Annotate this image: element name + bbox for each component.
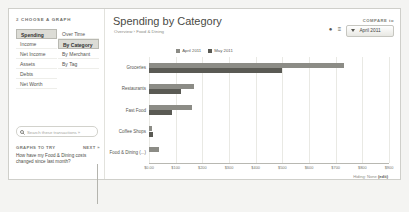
sidebar-item-label: Net Worth: [20, 81, 42, 87]
graph-type-list: Spending Income Net Income Assets Debts …: [16, 29, 57, 89]
legend-swatch: [176, 49, 180, 53]
value-axis: $0.00$100$200$300$400$500$600$700$800$90…: [149, 165, 389, 174]
sidebar-item-net-worth[interactable]: Net Worth: [16, 79, 57, 89]
axis-tick-label: $300: [225, 165, 234, 170]
table-row[interactable]: [149, 89, 181, 94]
sidebar-item-spending[interactable]: Spending: [16, 29, 57, 39]
tip-question[interactable]: How have my Food & Dining costs changed …: [16, 153, 100, 165]
gridline: [389, 57, 390, 163]
category-label[interactable]: Restaurants: [122, 86, 146, 91]
compare-to-label: COMPARE to: [346, 18, 394, 23]
axis-tick-label: $100: [171, 165, 180, 170]
sidebar-item-label: Assets: [20, 61, 35, 67]
legend-swatch: [208, 49, 212, 53]
hiding-label: Hiding: None: [353, 174, 377, 179]
table-row[interactable]: [149, 132, 153, 137]
legend-label: April 2011: [182, 48, 201, 53]
left-panel: 2 CHOOSE A GRAPH Spending Income Net Inc…: [9, 9, 105, 179]
axis-tick-label: $900: [385, 165, 394, 170]
graphs-app-window: 2 CHOOSE A GRAPH Spending Income Net Inc…: [8, 8, 401, 180]
table-row[interactable]: [149, 68, 282, 73]
category-label[interactable]: Coffee Shops: [119, 129, 146, 134]
sidebar-item-label: Spending: [21, 32, 44, 38]
breadcrumb[interactable]: Overview › Food & Dining: [114, 29, 164, 34]
axis-tick-label: $600: [305, 165, 314, 170]
category-label[interactable]: Food & Dining (...): [109, 150, 146, 155]
tip-pointer-line: [97, 164, 98, 204]
legend-item-may[interactable]: May 2011: [208, 48, 233, 53]
legend-item-april[interactable]: April 2011: [176, 48, 201, 53]
sidebar-item-debts[interactable]: Debts: [16, 69, 57, 79]
graphs-to-try-panel: NEXT » GRAPHS TO TRY How have my Food & …: [16, 145, 100, 165]
table-row[interactable]: [149, 147, 159, 152]
table-row[interactable]: [149, 126, 152, 131]
category-label[interactable]: Groceries: [126, 65, 146, 70]
search-transactions-box[interactable]: Search these transactions »: [16, 126, 98, 137]
print-icon[interactable]: ●: [327, 26, 334, 33]
chart-legend: April 2011 May 2011: [9, 46, 400, 55]
page-title: Spending by Category: [113, 15, 222, 27]
plot-area: [149, 57, 389, 164]
legend-label: May 2011: [214, 48, 233, 53]
axis-tick-label: $700: [331, 165, 340, 170]
table-row[interactable]: [149, 105, 192, 110]
choose-a-graph-heading: 2 CHOOSE A GRAPH: [16, 17, 71, 22]
table-row[interactable]: [149, 84, 194, 89]
table-row[interactable]: [149, 110, 172, 115]
table-row[interactable]: [149, 63, 344, 68]
axis-tick-label: $500: [278, 165, 287, 170]
sidebar-item-label: Debts: [20, 71, 33, 77]
export-icon[interactable]: ≡: [336, 26, 343, 33]
axis-tick-label: $200: [198, 165, 207, 170]
sidebar-item-assets[interactable]: Assets: [16, 59, 57, 69]
search-icon: [20, 130, 25, 135]
sidebar-item-over-time[interactable]: Over Time: [58, 29, 99, 39]
category-axis: GroceriesRestaurantsFast FoodCoffee Shop…: [113, 57, 149, 163]
step-number: 2: [16, 17, 19, 22]
spending-bar-chart: GroceriesRestaurantsFast FoodCoffee Shop…: [113, 57, 395, 179]
sidebar-item-label: Over Time: [62, 31, 85, 37]
bar-series: [149, 57, 389, 163]
category-label[interactable]: Fast Food: [126, 108, 146, 113]
hiding-status: Hiding: None (edit): [353, 174, 388, 179]
compare-period-dropdown[interactable]: April 2011: [346, 25, 394, 37]
axis-tick-label: $400: [251, 165, 260, 170]
graphs-to-try-header: NEXT » GRAPHS TO TRY: [16, 145, 100, 150]
compare-period-value: April 2011: [359, 28, 380, 33]
graphs-to-try-label: GRAPHS TO TRY: [16, 145, 55, 150]
choose-a-graph-label: CHOOSE A GRAPH: [21, 17, 71, 22]
sidebar-item-label: By Tag: [62, 61, 77, 67]
axis-tick-label: $0.00: [144, 165, 154, 170]
hiding-edit-link[interactable]: (edit): [378, 174, 388, 179]
header-tool-icons: ● ≡: [327, 26, 343, 33]
axis-tick-label: $800: [358, 165, 367, 170]
search-input[interactable]: Search these transactions »: [27, 127, 80, 138]
next-tip-button[interactable]: NEXT »: [83, 145, 100, 150]
sidebar-item-by-tag[interactable]: By Tag: [58, 59, 99, 69]
compare-control: COMPARE to April 2011: [346, 18, 394, 37]
chevron-down-icon: [351, 29, 355, 32]
